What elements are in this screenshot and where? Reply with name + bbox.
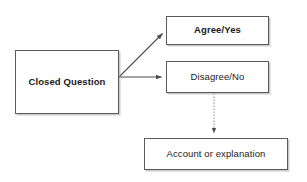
node-disagree-no-label: Disagree/No	[188, 72, 248, 83]
node-account-explanation: Account or explanation	[144, 138, 288, 170]
node-account-explanation-label: Account or explanation	[164, 149, 269, 160]
node-disagree-no: Disagree/No	[166, 61, 269, 93]
node-closed-question: Closed Question	[15, 50, 119, 114]
node-agree-yes-label: Agree/Yes	[191, 25, 244, 36]
node-closed-question-label: Closed Question	[26, 77, 109, 88]
edge-closed-question-to-agree-yes	[119, 34, 163, 78]
node-agree-yes: Agree/Yes	[166, 16, 269, 45]
diagram-canvas: Closed Question Agree/Yes Disagree/No Ac…	[0, 0, 307, 182]
